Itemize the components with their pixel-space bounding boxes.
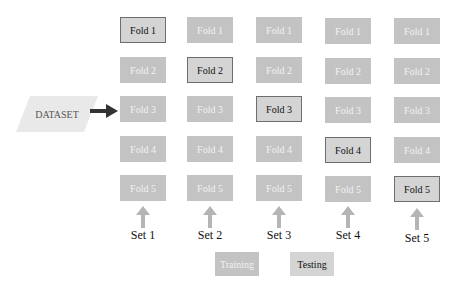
arrow-up-icon — [136, 206, 150, 228]
fold-box-train: Fold 2 — [325, 58, 371, 84]
fold-box-test: Fold 5 — [394, 176, 440, 202]
fold-box-train: Fold 5 — [120, 175, 166, 201]
set-label: Set 1 — [120, 228, 166, 243]
fold-box-train: Fold 1 — [256, 17, 302, 43]
arrow-up-icon — [410, 208, 424, 230]
fold-box-train: Fold 1 — [325, 18, 371, 44]
fold-box-test: Fold 2 — [187, 57, 233, 83]
arrow-right-icon — [90, 103, 118, 119]
fold-box-train: Fold 3 — [394, 97, 440, 123]
fold-box-train: Fold 2 — [120, 57, 166, 83]
set-label: Set 5 — [394, 231, 440, 246]
set-label: Set 2 — [187, 228, 233, 243]
set-label: Set 3 — [256, 228, 302, 243]
fold-box-train: Fold 4 — [187, 136, 233, 162]
set-label: Set 4 — [325, 228, 371, 243]
fold-box-train: Fold 1 — [187, 17, 233, 43]
fold-box-train: Fold 5 — [187, 175, 233, 201]
arrow-up-icon — [272, 206, 286, 228]
arrow-up-icon — [203, 206, 217, 228]
legend-training: Training — [215, 252, 259, 276]
fold-box-train: Fold 3 — [325, 97, 371, 123]
fold-box-train: Fold 4 — [394, 137, 440, 163]
dataset-label: DATASET — [16, 96, 98, 132]
arrow-up-icon — [341, 206, 355, 228]
fold-box-train: Fold 2 — [394, 58, 440, 84]
fold-box-test: Fold 1 — [120, 17, 166, 43]
fold-box-train: Fold 2 — [256, 57, 302, 83]
fold-box-train: Fold 5 — [256, 175, 302, 201]
fold-box-train: Fold 4 — [120, 136, 166, 162]
fold-box-train: Fold 5 — [325, 176, 371, 202]
fold-box-train: Fold 1 — [394, 18, 440, 44]
fold-box-test: Fold 3 — [256, 96, 302, 122]
fold-box-train: Fold 3 — [120, 96, 166, 122]
fold-box-test: Fold 4 — [325, 137, 371, 163]
fold-box-train: Fold 3 — [187, 96, 233, 122]
legend-testing: Testing — [290, 252, 334, 276]
fold-box-train: Fold 4 — [256, 136, 302, 162]
